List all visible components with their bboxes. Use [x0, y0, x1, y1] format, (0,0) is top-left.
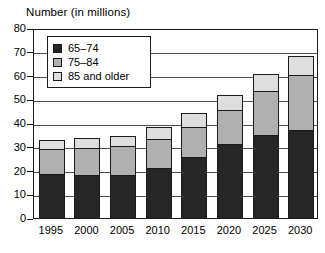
- bar-segment[interactable]: [288, 75, 314, 131]
- chart-figure: Number (in millions) 80706050403020100 1…: [0, 0, 325, 253]
- bar-segment[interactable]: [253, 135, 279, 219]
- bar-group[interactable]: [288, 56, 314, 218]
- y-tick-label: 60: [2, 71, 26, 82]
- x-tick-label: 2030: [278, 224, 322, 236]
- bar-group[interactable]: [253, 74, 279, 218]
- legend-swatch-icon: [53, 72, 62, 81]
- bar-group[interactable]: [181, 113, 207, 218]
- legend-item-label: 75–84: [68, 57, 99, 68]
- bar-segment[interactable]: [39, 174, 65, 219]
- legend-swatch-icon: [53, 44, 62, 53]
- y-tick-label: 70: [2, 47, 26, 58]
- bar-segment[interactable]: [181, 113, 207, 128]
- bar-group[interactable]: [110, 136, 136, 219]
- legend-item[interactable]: 65–74: [53, 41, 145, 55]
- legend-swatch-icon: [53, 58, 62, 67]
- chart-title: Number (in millions): [26, 6, 130, 18]
- y-tick-label: 40: [2, 118, 26, 129]
- legend-item-label: 65–74: [68, 43, 99, 54]
- bar-segment[interactable]: [74, 148, 100, 177]
- bar-segment[interactable]: [288, 56, 314, 76]
- legend-item-label: 85 and older: [68, 71, 129, 82]
- bar-segment[interactable]: [253, 91, 279, 136]
- bar-segment[interactable]: [288, 130, 314, 219]
- y-tick-label: 80: [2, 23, 26, 34]
- bar-group[interactable]: [146, 127, 172, 218]
- y-tick-label: 0: [2, 213, 26, 224]
- chart-legend: 65–7475–8485 and older: [47, 36, 151, 88]
- y-tick-label: 10: [2, 189, 26, 200]
- bar-segment[interactable]: [146, 139, 172, 169]
- bar-segment[interactable]: [181, 157, 207, 219]
- bar-group[interactable]: [39, 140, 65, 218]
- legend-item[interactable]: 85 and older: [53, 69, 145, 83]
- bar-segment[interactable]: [146, 168, 172, 219]
- bar-segment[interactable]: [181, 127, 207, 158]
- y-tick-label: 50: [2, 94, 26, 105]
- bar-group[interactable]: [74, 138, 100, 218]
- bar-segment[interactable]: [39, 149, 65, 175]
- bar-segment[interactable]: [74, 175, 100, 219]
- bar-segment[interactable]: [110, 146, 136, 176]
- bar-segment[interactable]: [217, 144, 243, 219]
- bar-segment[interactable]: [217, 95, 243, 110]
- y-tick-label: 20: [2, 166, 26, 177]
- bar-segment[interactable]: [253, 74, 279, 92]
- bar-segment[interactable]: [110, 175, 136, 219]
- bar-segment[interactable]: [217, 110, 243, 146]
- y-tick-label: 30: [2, 142, 26, 153]
- bar-group[interactable]: [217, 95, 243, 218]
- legend-item[interactable]: 75–84: [53, 55, 145, 69]
